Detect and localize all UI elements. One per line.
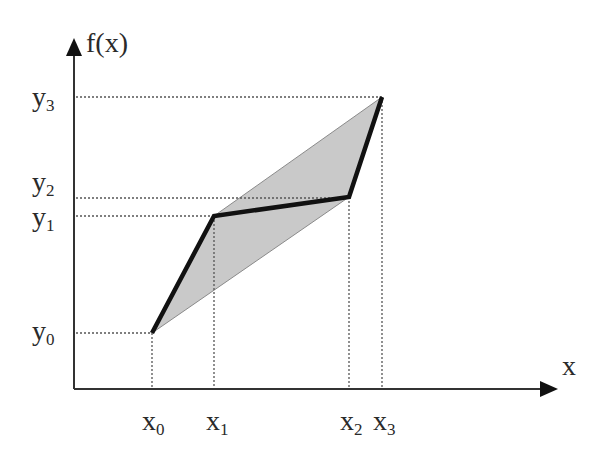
y-axis-arrow-icon — [66, 38, 82, 56]
shaded-region — [152, 97, 382, 333]
x3-label: x3 — [373, 405, 396, 439]
y0-label: y0 — [32, 315, 55, 349]
x1-label: x1 — [206, 405, 229, 439]
x-axis-arrow-icon — [540, 381, 558, 397]
piecewise-linear-diagram: f(x) x y3 y2 y1 y0 x0 x1 x2 x3 — [0, 0, 610, 453]
x-axis-label: x — [562, 350, 576, 381]
y1-label: y1 — [32, 201, 55, 235]
y2-label: y2 — [32, 166, 55, 200]
x2-label: x2 — [340, 405, 363, 439]
y3-label: y3 — [32, 81, 55, 115]
x0-label: x0 — [142, 405, 165, 439]
y-axis-label: f(x) — [86, 27, 128, 58]
